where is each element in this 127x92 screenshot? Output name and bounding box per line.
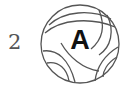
option-number: 2 — [8, 30, 21, 54]
ball-letter: A — [65, 25, 95, 55]
